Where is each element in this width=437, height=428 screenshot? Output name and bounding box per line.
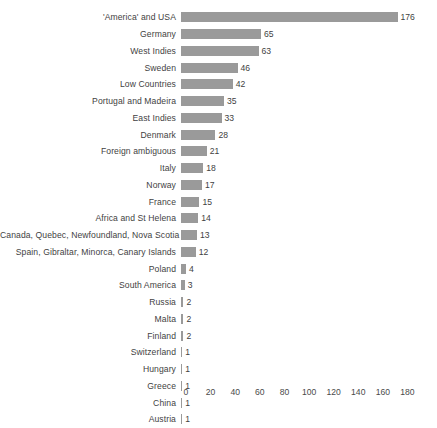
bar[interactable] bbox=[181, 79, 233, 89]
bar-container: 63 bbox=[181, 43, 437, 60]
bar-container: 4 bbox=[181, 260, 437, 277]
category-label: Italy bbox=[0, 163, 181, 173]
category-label: Poland bbox=[0, 264, 181, 274]
bar[interactable] bbox=[181, 230, 197, 240]
bar-row: Poland4 bbox=[0, 260, 437, 277]
bar-row: Spain, Gibraltar, Minorca, Canary Island… bbox=[0, 244, 437, 261]
bar-container: 176 bbox=[181, 9, 437, 26]
bar-row: Africa and St Helena14 bbox=[0, 210, 437, 227]
bar[interactable] bbox=[181, 46, 259, 56]
bar-row: Russia2 bbox=[0, 294, 437, 311]
bar-row: Italy18 bbox=[0, 160, 437, 177]
bar-row: Finland2 bbox=[0, 327, 437, 344]
x-axis-tick: 180 bbox=[400, 386, 414, 398]
x-axis-tick: 160 bbox=[376, 386, 390, 398]
category-label: Sweden bbox=[0, 63, 181, 73]
bar-container: 2 bbox=[181, 327, 437, 344]
bar-value-label: 13 bbox=[197, 230, 210, 240]
bar-container: 13 bbox=[181, 227, 437, 244]
bar[interactable] bbox=[181, 96, 224, 106]
bar[interactable] bbox=[181, 113, 222, 123]
x-axis-tick: 80 bbox=[280, 386, 290, 398]
category-label: Switzerland bbox=[0, 347, 181, 357]
bar-value-label: 12 bbox=[196, 247, 209, 257]
bar-value-label: 2 bbox=[183, 314, 191, 324]
bar-container: 3 bbox=[181, 277, 437, 294]
category-label: Canada, Quebec, Newfoundland, Nova Scoti… bbox=[0, 230, 181, 240]
bar-row: Germany65 bbox=[0, 26, 437, 43]
category-label: West Indies bbox=[0, 46, 181, 56]
bar-value-label: 42 bbox=[233, 79, 246, 89]
bar-row: West Indies63 bbox=[0, 43, 437, 60]
category-label: Denmark bbox=[0, 130, 181, 140]
bar-container: 28 bbox=[181, 126, 437, 143]
bar[interactable] bbox=[181, 197, 199, 207]
bar-value-label: 176 bbox=[398, 12, 415, 22]
bar[interactable] bbox=[181, 130, 215, 140]
x-axis-tick: 60 bbox=[255, 386, 265, 398]
bar-container: 1 bbox=[181, 361, 437, 378]
bar-row: Denmark28 bbox=[0, 126, 437, 143]
x-axis-tick: 20 bbox=[206, 386, 216, 398]
bar-value-label: 15 bbox=[199, 197, 212, 207]
category-label: Austria bbox=[0, 414, 181, 424]
category-label: Norway bbox=[0, 180, 181, 190]
x-axis-tick: 120 bbox=[326, 386, 340, 398]
bar[interactable] bbox=[181, 180, 202, 190]
bar[interactable] bbox=[181, 163, 203, 173]
bar-container: 65 bbox=[181, 26, 437, 43]
bar-value-label: 1 bbox=[182, 364, 190, 374]
bar[interactable] bbox=[181, 12, 398, 22]
bar-row: East Indies33 bbox=[0, 110, 437, 127]
bar-container: 42 bbox=[181, 76, 437, 93]
category-label: Germany bbox=[0, 29, 181, 39]
category-label: Spain, Gibraltar, Minorca, Canary Island… bbox=[0, 247, 181, 257]
bar-row: Switzerland1 bbox=[0, 344, 437, 361]
x-axis-tick: 0 bbox=[184, 386, 189, 398]
bar-container: 12 bbox=[181, 244, 437, 261]
bar-container: 2 bbox=[181, 311, 437, 328]
bar-value-label: 35 bbox=[224, 96, 237, 106]
x-axis-tick: 100 bbox=[302, 386, 316, 398]
bar[interactable] bbox=[181, 213, 198, 223]
category-label: 'America' and USA bbox=[0, 12, 181, 22]
bar-row: France15 bbox=[0, 193, 437, 210]
bar-row: Sweden46 bbox=[0, 59, 437, 76]
x-axis-tick: 140 bbox=[351, 386, 365, 398]
category-label: Finland bbox=[0, 331, 181, 341]
x-axis: 020406080100120140160180 bbox=[0, 386, 437, 400]
category-label: Russia bbox=[0, 297, 181, 307]
bar-container: 1 bbox=[181, 411, 437, 428]
bar[interactable] bbox=[181, 247, 196, 257]
bar-row: South America3 bbox=[0, 277, 437, 294]
category-label: Low Countries bbox=[0, 79, 181, 89]
bar-value-label: 65 bbox=[261, 29, 274, 39]
x-axis-tick: 40 bbox=[230, 386, 240, 398]
bar-container: 17 bbox=[181, 177, 437, 194]
bar-container: 14 bbox=[181, 210, 437, 227]
category-label: France bbox=[0, 197, 181, 207]
plot-area: 'America' and USA176Germany65West Indies… bbox=[0, 9, 437, 428]
bar-row: Low Countries42 bbox=[0, 76, 437, 93]
bar-value-label: 1 bbox=[182, 414, 190, 424]
bar-row: Norway17 bbox=[0, 177, 437, 194]
bar-value-label: 14 bbox=[198, 213, 211, 223]
bar[interactable] bbox=[181, 146, 207, 156]
bar-container: 33 bbox=[181, 110, 437, 127]
bar[interactable] bbox=[181, 63, 238, 73]
bar-value-label: 33 bbox=[222, 113, 235, 123]
bar-container: 46 bbox=[181, 59, 437, 76]
bar-container: 1 bbox=[181, 344, 437, 361]
category-label: Malta bbox=[0, 314, 181, 324]
bar-value-label: 2 bbox=[183, 297, 191, 307]
bar-value-label: 21 bbox=[207, 146, 220, 156]
category-label: Foreign ambiguous bbox=[0, 146, 181, 156]
bar[interactable] bbox=[181, 29, 261, 39]
category-label: Hungary bbox=[0, 364, 181, 374]
bar-container: 35 bbox=[181, 93, 437, 110]
bar-container: 15 bbox=[181, 193, 437, 210]
bar-value-label: 28 bbox=[215, 130, 228, 140]
bar-value-label: 2 bbox=[183, 331, 191, 341]
bar-row: Canada, Quebec, Newfoundland, Nova Scoti… bbox=[0, 227, 437, 244]
